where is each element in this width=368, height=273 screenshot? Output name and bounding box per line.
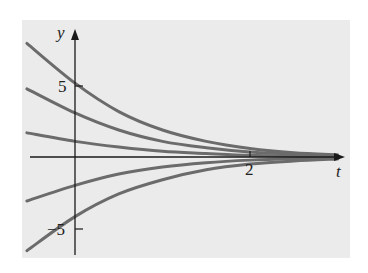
y-axis-label: y: [55, 23, 65, 42]
plot-panel: [22, 20, 350, 258]
y-tick-label-5: 5: [58, 77, 67, 96]
chart: y t 5 −5 2: [0, 0, 368, 273]
y-tick-label-neg5: −5: [47, 220, 65, 239]
t-tick-label-2: 2: [245, 160, 254, 179]
